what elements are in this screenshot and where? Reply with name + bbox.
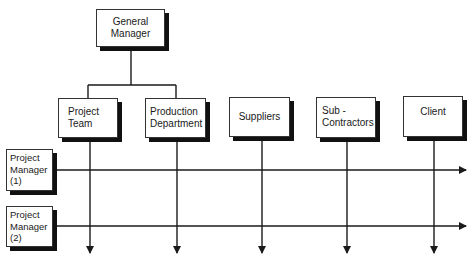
pm1-line1: Project: [10, 152, 52, 164]
production-department-line1: Production: [150, 106, 205, 118]
pm2-line1: Project: [10, 209, 52, 221]
client-label: Client: [404, 106, 462, 118]
sub-contractors-line1: Sub -: [322, 105, 375, 117]
suppliers-label: Suppliers: [230, 111, 289, 123]
general-manager-box: General Manager: [96, 9, 165, 47]
project-manager-2-box: Project Manager (2): [6, 206, 53, 247]
production-department-line2: Department: [150, 118, 205, 130]
suppliers-box: Suppliers: [229, 97, 290, 137]
project-team-line1: Project: [68, 106, 117, 118]
pm2-line3: (2): [10, 232, 52, 244]
general-manager-label-line2: Manager: [97, 28, 164, 40]
project-team-line2: Team: [68, 118, 117, 130]
pm1-line3: (1): [10, 175, 52, 187]
pm2-line2: Manager: [10, 221, 52, 233]
project-team-box: Project Team: [58, 98, 118, 138]
sub-contractors-line2: Contractors: [322, 117, 375, 129]
pm1-line2: Manager: [10, 164, 52, 176]
project-manager-1-box: Project Manager (1): [6, 149, 53, 191]
client-box: Client: [403, 96, 463, 137]
production-department-box: Production Department: [145, 98, 206, 138]
sub-contractors-box: Sub - Contractors: [316, 97, 376, 138]
general-manager-label-line1: General: [97, 16, 164, 28]
